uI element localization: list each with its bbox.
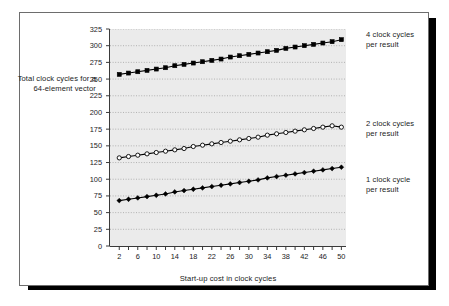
figure-root: Total clock cycles for a 64-element vect… <box>0 0 449 306</box>
axes <box>0 0 449 306</box>
